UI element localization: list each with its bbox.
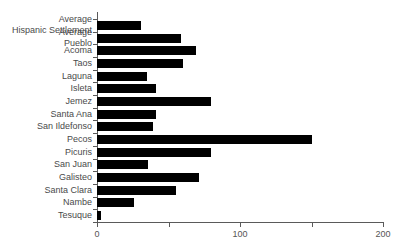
x-axis-tick-label: 200 bbox=[375, 229, 390, 240]
bar bbox=[97, 21, 141, 30]
bar bbox=[97, 59, 183, 68]
category-label-line: Isleta bbox=[70, 83, 92, 93]
category-label-line: San Juan bbox=[54, 159, 92, 169]
category-label-line: Acoma bbox=[64, 45, 92, 55]
x-axis-tick-label: 100 bbox=[232, 229, 247, 240]
y-axis-tick bbox=[93, 95, 97, 96]
category-label-line: Average bbox=[59, 14, 92, 24]
category-label-line: Santa Ana bbox=[50, 109, 92, 119]
x-axis-tick bbox=[240, 223, 241, 227]
category-label: Santa Ana bbox=[50, 109, 92, 120]
bar bbox=[97, 135, 312, 144]
category-label: Isleta bbox=[70, 83, 92, 94]
category-label-line: Santa Clara bbox=[44, 185, 92, 195]
category-label: Nambe bbox=[63, 197, 92, 208]
category-label-line: Taos bbox=[73, 58, 92, 68]
y-axis-tick bbox=[93, 57, 97, 58]
bar bbox=[97, 97, 211, 106]
category-label-line: San Ildefonso bbox=[37, 121, 92, 131]
x-axis-tick bbox=[97, 223, 98, 227]
y-axis-tick bbox=[93, 209, 97, 210]
bar bbox=[97, 186, 176, 195]
category-label-line: Picuris bbox=[65, 147, 92, 157]
category-label: Picuris bbox=[65, 147, 92, 158]
category-label: Jemez bbox=[65, 96, 92, 107]
bar bbox=[97, 122, 153, 131]
y-axis-tick bbox=[93, 133, 97, 134]
category-label: San Ildefonso bbox=[37, 121, 92, 132]
category-label: Laguna bbox=[62, 71, 92, 82]
category-label-line: Average bbox=[59, 27, 92, 37]
category-label-line: Galisteo bbox=[59, 172, 92, 182]
bar bbox=[97, 34, 181, 43]
bar bbox=[97, 72, 147, 81]
x-axis-tick bbox=[383, 223, 384, 227]
bar bbox=[97, 198, 134, 207]
category-label-line: Laguna bbox=[62, 71, 92, 81]
category-label-line: Tesuque bbox=[58, 210, 92, 220]
y-axis-tick bbox=[93, 82, 97, 83]
category-label: Taos bbox=[73, 58, 92, 69]
y-axis-tick bbox=[93, 171, 97, 172]
category-label: San Juan bbox=[54, 159, 92, 170]
category-label: Acoma bbox=[64, 45, 92, 56]
x-axis-tick bbox=[169, 223, 170, 227]
category-label: Pecos bbox=[67, 134, 92, 145]
bar bbox=[97, 173, 199, 182]
category-label-line: Pecos bbox=[67, 134, 92, 144]
bar bbox=[97, 84, 156, 93]
bar bbox=[97, 160, 148, 169]
category-label: Galisteo bbox=[59, 172, 92, 183]
category-label-line: Nambe bbox=[63, 197, 92, 207]
y-axis-tick bbox=[93, 120, 97, 121]
bar bbox=[97, 46, 196, 55]
category-label: Tesuque bbox=[58, 210, 92, 221]
category-label: Santa Clara bbox=[44, 185, 92, 196]
bar-chart: AverageHispanic SettlementAveragePuebloA… bbox=[0, 0, 403, 250]
x-axis-tick bbox=[312, 223, 313, 227]
bar bbox=[97, 110, 156, 119]
category-label-line: Jemez bbox=[65, 96, 92, 106]
y-axis-tick bbox=[93, 44, 97, 45]
x-axis-tick-label: 0 bbox=[94, 229, 99, 240]
bar bbox=[97, 148, 211, 157]
bar bbox=[97, 211, 101, 220]
